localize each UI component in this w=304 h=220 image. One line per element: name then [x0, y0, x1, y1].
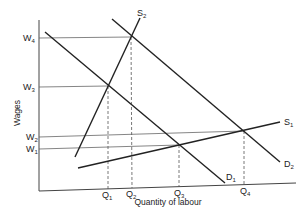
supply-curve-s2 [75, 18, 140, 157]
q3-label: Q3 [174, 188, 185, 199]
q2-guide-line [131, 37, 132, 188]
w1-guide-line [39, 145, 179, 149]
demand-curve-d1 [45, 32, 225, 183]
w3-guide-line [39, 86, 108, 87]
d1-label: D1 [226, 172, 237, 183]
q1-label: Q1 [102, 190, 113, 201]
x-axis [39, 183, 296, 191]
q4-label: Q4 [240, 186, 251, 197]
s1-label: S1 [284, 117, 294, 128]
w2-label: W2 [26, 132, 39, 143]
w1-label: W1 [26, 144, 39, 155]
w2-guide-line [39, 131, 244, 137]
w4-label: W4 [23, 33, 36, 44]
w3-label: W3 [23, 82, 36, 93]
x-axis-title: Quantity of labour [134, 197, 201, 207]
s2-label: S2 [137, 8, 147, 19]
q2-label: Q2 [126, 189, 137, 200]
y-axis-title: Wages [12, 100, 22, 126]
d2-label: D2 [284, 159, 295, 170]
labour-market-diagram: Wages Quantity of labour W4 W3 W2 W1 Q1 … [0, 0, 304, 220]
